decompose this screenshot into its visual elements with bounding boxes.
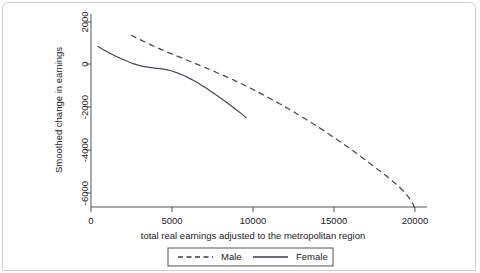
chart-legend: Male Female: [168, 248, 333, 266]
chart-series-group: [98, 35, 415, 209]
x-tick-label-5000: 5000: [161, 215, 182, 226]
x-tick-label-10000: 10000: [240, 215, 266, 226]
legend-label-male: Male: [221, 251, 242, 262]
y-tick-label-n4000: -4000: [79, 138, 90, 162]
x-axis-title: total real earnings adjusted to the metr…: [141, 230, 365, 241]
chart-figure: 2000 0 -2000 -4000 -6000 Smoothed change…: [0, 0, 480, 273]
x-tick-label-0: 0: [88, 215, 93, 226]
legend-label-female: Female: [296, 251, 328, 262]
chart-svg: 2000 0 -2000 -4000 -6000 Smoothed change…: [0, 0, 480, 273]
x-tick-label-15000: 15000: [321, 215, 347, 226]
y-tick-label-0: 0: [79, 61, 90, 66]
y-axis-title: Smoothed change in earnings: [53, 47, 64, 173]
x-tick-label-20000: 20000: [402, 215, 428, 226]
y-tick-label-n6000: -6000: [79, 181, 90, 205]
y-axis-tick-labels: 2000 0 -2000 -4000 -6000: [79, 11, 90, 205]
series-line-male: [131, 35, 415, 209]
y-tick-label-2000: 2000: [79, 11, 90, 32]
x-axis-tick-labels: 0 5000 10000 15000 20000: [88, 215, 428, 226]
y-tick-label-n2000: -2000: [79, 95, 90, 119]
x-axis-ticks: [91, 207, 415, 212]
chart-axes: [91, 14, 427, 207]
series-line-female: [98, 47, 246, 118]
